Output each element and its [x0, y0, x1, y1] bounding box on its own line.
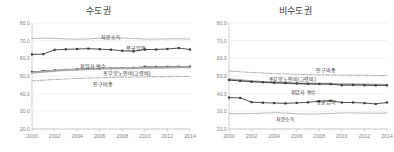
series-marker — [262, 81, 264, 83]
series-marker — [284, 82, 286, 84]
series-marker — [42, 53, 44, 55]
series-marker — [31, 53, 33, 55]
series-marker — [363, 84, 365, 86]
series-marker — [76, 48, 78, 50]
series-marker — [375, 103, 377, 105]
series-marker — [189, 48, 191, 50]
series-marker — [110, 49, 112, 51]
series-annotation-label: 처분소득 — [276, 114, 296, 121]
series-marker — [386, 84, 388, 86]
series-annotation-label: 처분소득 — [101, 33, 121, 40]
series-marker — [178, 47, 180, 49]
series-marker — [65, 48, 67, 50]
series-marker — [121, 50, 123, 52]
series-marker — [363, 102, 365, 104]
series-annotation-label: 인구비중 — [93, 80, 113, 87]
series-marker — [296, 82, 298, 84]
series-marker — [87, 48, 89, 50]
series-marker — [250, 81, 252, 83]
two-panel-line-chart-figure: 수도권 80.070.060.050.040.030.020.0 2000200… — [0, 0, 394, 152]
series-marker — [99, 48, 101, 50]
series-marker — [329, 83, 331, 85]
series-marker — [318, 83, 320, 85]
series-marker — [386, 101, 388, 103]
series-marker — [239, 80, 241, 82]
series-marker — [155, 48, 157, 50]
series-marker — [262, 102, 264, 104]
series-marker — [273, 102, 275, 104]
chart-panel-capital-region: 수도권 80.070.060.050.040.030.020.0 2000200… — [0, 0, 197, 152]
series-marker — [53, 49, 55, 51]
series-marker — [352, 101, 354, 103]
series-marker — [228, 96, 230, 98]
series-marker — [307, 83, 309, 85]
chart-panel-non-capital-region: 비수도권 80.070.060.050.040.030.020.0 200020… — [197, 0, 394, 152]
series-annotation-label: 평균임여 — [126, 43, 146, 50]
series-marker — [341, 84, 343, 86]
series-annotation-label: 취업자 변수 — [291, 87, 317, 94]
series-marker — [132, 50, 134, 52]
series-annotation-label: 인구비중 — [316, 66, 336, 73]
series-marker — [239, 97, 241, 99]
series-annotation-label: 평균임여 — [316, 98, 336, 105]
series-marker — [284, 102, 286, 104]
series-annotation-label: 취업자 변수 — [80, 61, 106, 68]
series-marker — [375, 84, 377, 86]
series-line — [229, 113, 387, 114]
series-marker — [341, 101, 343, 103]
series-annotation-label: 총부양노인비(고령비) — [103, 68, 150, 75]
series-marker — [228, 79, 230, 81]
series-marker — [166, 48, 168, 50]
series-annotation-label: 총부양노인비(고령비) — [269, 75, 316, 82]
series-marker — [352, 84, 354, 86]
series-marker — [296, 102, 298, 104]
plot-area — [0, 0, 197, 152]
series-marker — [307, 101, 309, 103]
series-marker — [250, 101, 252, 103]
